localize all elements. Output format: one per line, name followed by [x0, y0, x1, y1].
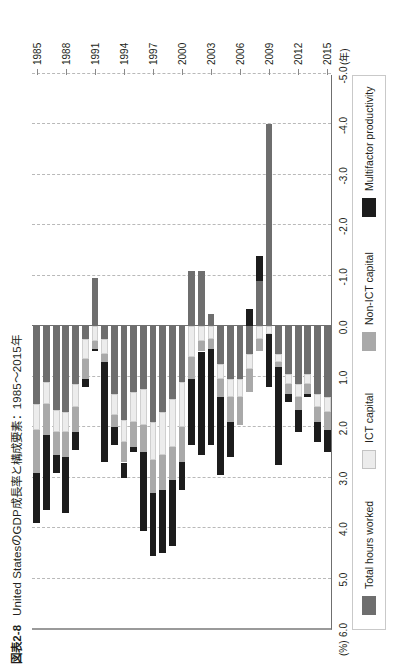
category-tick: [240, 69, 241, 75]
bar-segment: [169, 399, 176, 447]
bar-segment: [101, 362, 108, 463]
bar-segment: [314, 326, 321, 394]
bar-segment: [33, 326, 40, 404]
bar-row: [266, 75, 273, 629]
bar-segment: [275, 354, 282, 362]
bar-segment: [304, 374, 311, 384]
bar-row: [275, 75, 282, 629]
bar-segment: [324, 430, 331, 453]
category-tick: [153, 69, 154, 75]
bar-segment: [304, 384, 311, 394]
bar-segment: [150, 460, 157, 493]
legend-item: Non-ICT capital: [362, 252, 376, 351]
legend-label: Total hours worked: [363, 501, 375, 589]
bar-row: [304, 75, 311, 629]
bar-segment: [179, 427, 186, 462]
bar-segment: [72, 326, 79, 384]
legend-swatch: [362, 332, 376, 351]
category-axis-label: 2012: [293, 43, 304, 65]
bar-segment: [82, 339, 89, 359]
bar-segment: [227, 326, 234, 379]
bar-segment: [121, 326, 128, 419]
bar-row: [246, 75, 253, 629]
bar-segment: [237, 326, 244, 379]
figure-number: 図表2-8: [11, 625, 23, 664]
bar-row: [62, 75, 69, 629]
bar-row: [121, 75, 128, 629]
bar-segment: [246, 326, 253, 354]
bar-segment: [92, 349, 99, 352]
bar-segment: [130, 392, 137, 422]
bar-row: [53, 75, 60, 629]
legend-swatch: [362, 198, 376, 217]
value-axis-label: 1.0: [338, 371, 349, 385]
bar-segment: [266, 326, 273, 334]
bar-segment: [140, 425, 147, 453]
bar-segment: [275, 367, 282, 465]
bar-segment: [217, 397, 224, 475]
category-axis-label: 1997: [147, 43, 158, 65]
bar-segment: [72, 407, 79, 432]
bar-segment: [82, 326, 89, 339]
bar-row: [217, 75, 224, 629]
bar-row: [33, 75, 40, 629]
bar-segment: [43, 435, 50, 511]
bar-segment: [62, 412, 69, 432]
bar-segment: [208, 339, 215, 349]
category-axis-label: 2015: [322, 43, 333, 65]
bar-segment: [43, 404, 50, 434]
bar-segment: [140, 326, 147, 389]
bar-row: [285, 75, 292, 629]
bar-segment: [111, 394, 118, 414]
bar-segment: [111, 427, 118, 445]
bar-segment: [140, 452, 147, 530]
bar-segment: [130, 326, 137, 392]
bar-segment: [121, 442, 128, 462]
bar-segment: [92, 278, 99, 326]
bar-segment: [217, 326, 224, 364]
bar-segment: [33, 473, 40, 523]
bar-row: [140, 75, 147, 629]
category-tick: [298, 69, 299, 75]
bar-segment: [324, 397, 331, 412]
bar-segment: [43, 326, 50, 382]
bar-segment: [266, 334, 273, 387]
bar-segment: [208, 349, 215, 445]
legend-item: Multifactor productivity: [362, 87, 376, 217]
legend-label: Non-ICT capital: [363, 252, 375, 325]
bar-segment: [159, 326, 166, 412]
bar-row: [101, 75, 108, 629]
bar-row: [324, 75, 331, 629]
bar-segment: [237, 379, 244, 397]
category-axis-label: 1991: [89, 43, 100, 65]
bar-segment: [295, 410, 302, 433]
bar-segment: [256, 256, 263, 281]
bar-row: [314, 75, 321, 629]
category-axis-label: 2006: [235, 43, 246, 65]
legend-item: ICT capital: [362, 393, 376, 469]
bar-segment: [198, 352, 205, 455]
bar-segment: [188, 271, 195, 327]
bar-segment: [62, 457, 69, 513]
value-axis-label: 6.0: [338, 623, 349, 637]
bar-segment: [72, 384, 79, 407]
bar-segment: [150, 326, 157, 422]
category-axis-unit: (年): [336, 48, 351, 65]
bar-segment: [285, 394, 292, 402]
bar-row: [92, 75, 99, 629]
bar-segment: [101, 339, 108, 354]
category-tick: [95, 69, 96, 75]
bar-segment: [179, 326, 186, 382]
bar-segment: [208, 314, 215, 327]
chart-plot-area: [32, 75, 332, 630]
value-axis-label: 3.0: [338, 472, 349, 486]
bar-segment: [130, 422, 137, 447]
value-axis-unit: (%): [338, 640, 349, 656]
bar-segment: [275, 326, 282, 354]
legend-swatch: [362, 596, 376, 615]
category-tick: [269, 69, 270, 75]
bar-segment: [33, 430, 40, 473]
value-axis-label: 0.0: [338, 320, 349, 334]
bar-segment: [227, 397, 234, 422]
bar-segment: [169, 326, 176, 399]
